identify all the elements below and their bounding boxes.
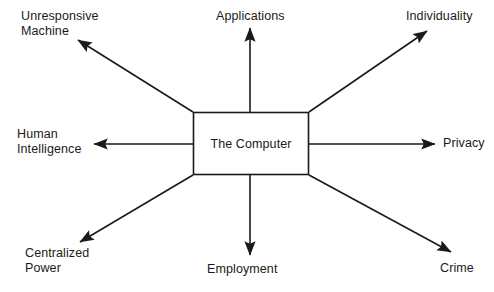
center-node-label: The Computer xyxy=(193,112,309,175)
node-label-privacy: Privacy xyxy=(443,136,485,151)
diagram-canvas: The Computer Unresponsive Machine Applic… xyxy=(0,0,494,292)
edge-to-crime xyxy=(309,175,451,252)
edge-to-centralized-power xyxy=(80,175,193,242)
edge-to-unresponsive-machine xyxy=(78,40,193,112)
node-label-human-intelligence: Human Intelligence xyxy=(17,127,81,157)
node-label-unresponsive-machine: Unresponsive Machine xyxy=(21,9,99,39)
node-label-applications: Applications xyxy=(216,9,285,24)
edge-to-individuality xyxy=(309,31,427,112)
node-label-individuality: Individuality xyxy=(406,9,473,24)
node-label-centralized-power: Centralized Power xyxy=(25,246,89,276)
node-label-crime: Crime xyxy=(440,261,474,276)
node-label-employment: Employment xyxy=(207,262,277,277)
